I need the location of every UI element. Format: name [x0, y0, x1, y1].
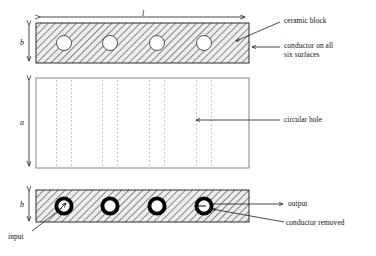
label-output: output — [288, 199, 307, 208]
figure-canvas: l b a b ceramic block conductor on all s… — [0, 0, 376, 256]
dimension-label-length: l — [142, 9, 144, 18]
label-conductor-surfaces-line1: conductor on all — [284, 41, 333, 50]
bottom-view — [36, 190, 249, 222]
side-block-body — [36, 78, 249, 168]
bottom-hole-ring-3 — [149, 198, 164, 213]
top-hole-1 — [57, 36, 72, 51]
bottom-hole-ring-1 — [56, 198, 71, 213]
top-view — [36, 23, 249, 63]
label-conductor-surfaces-line2: six surfaces — [284, 50, 320, 59]
dimension-label-a: a — [20, 118, 24, 127]
side-view — [36, 78, 249, 168]
bottom-hole-ring-2 — [102, 198, 117, 213]
label-conductor-removed: conductor removed — [286, 218, 345, 227]
label-input: input — [8, 232, 24, 241]
label-circular-hole: circular hole — [284, 115, 322, 124]
label-ceramic-block: ceramic block — [284, 16, 327, 25]
top-hole-4 — [197, 36, 212, 51]
top-hole-3 — [150, 36, 165, 51]
dimension-label-b-bottom: b — [20, 200, 24, 209]
top-hole-2 — [103, 36, 118, 51]
dimension-label-b-top: b — [20, 38, 24, 47]
